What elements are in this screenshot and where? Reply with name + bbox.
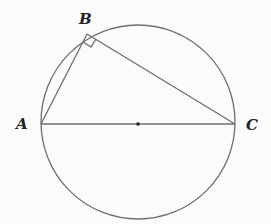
label-b: B — [78, 10, 92, 28]
segment-ab — [41, 34, 87, 124]
circle — [41, 25, 235, 219]
label-c: C — [246, 116, 258, 134]
segment-bc — [87, 34, 235, 124]
label-a: A — [14, 115, 28, 133]
center-point — [136, 122, 140, 126]
geometry-diagram: B A C — [0, 0, 271, 224]
diagram-svg: B A C — [0, 0, 271, 224]
